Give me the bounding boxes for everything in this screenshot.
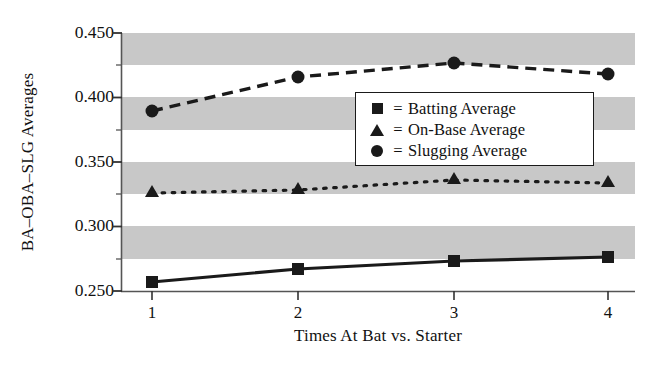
x-axis-tick-labels: 1 2 3 4	[0, 0, 660, 366]
circle-marker-icon	[366, 145, 388, 157]
legend-label: Slugging Average	[408, 141, 527, 161]
triangle-marker-icon	[366, 124, 388, 136]
x-tick-label: 3	[434, 303, 474, 323]
legend-item-slugging-average: = Slugging Average	[366, 140, 585, 161]
legend-equals-sign: =	[388, 120, 408, 140]
x-axis-title: Times At Bat vs. Starter	[121, 326, 635, 346]
legend-label: On-Base Average	[408, 120, 525, 140]
legend-label: Batting Average	[408, 99, 516, 119]
legend-equals-sign: =	[388, 99, 408, 119]
square-marker-icon	[366, 103, 388, 114]
legend-item-batting-average: = Batting Average	[366, 98, 585, 119]
legend-equals-sign: =	[388, 141, 408, 161]
legend-item-on-base-average: = On-Base Average	[366, 119, 585, 140]
x-tick-label: 2	[278, 303, 318, 323]
chart-legend: = Batting Average = On-Base Average = Sl…	[355, 92, 594, 166]
chart-figure: BA–OBA–SLG Averages 0.450 0.400 0.350 0.…	[0, 0, 660, 366]
x-tick-label: 4	[588, 303, 628, 323]
x-tick-label: 1	[132, 303, 172, 323]
